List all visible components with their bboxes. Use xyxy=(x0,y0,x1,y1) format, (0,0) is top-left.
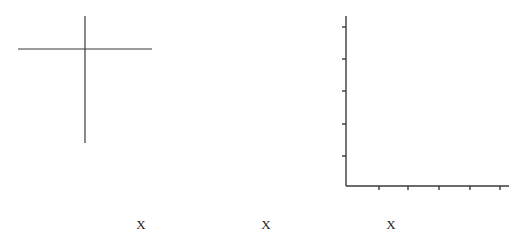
x-label-3: X xyxy=(386,217,395,233)
diagram-canvas xyxy=(0,0,529,246)
x-label-2: X xyxy=(261,217,270,233)
empty-chart-axes xyxy=(342,16,509,190)
x-label-1: X xyxy=(136,217,145,233)
cross-figure xyxy=(18,16,152,143)
